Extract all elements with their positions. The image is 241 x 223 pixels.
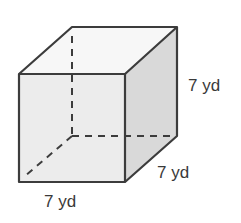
depth-label: 7 yd [157,163,189,182]
cube-diagram: 7 yd 7 yd 7 yd [0,0,241,223]
width-label: 7 yd [44,192,76,211]
height-label: 7 yd [188,76,220,95]
